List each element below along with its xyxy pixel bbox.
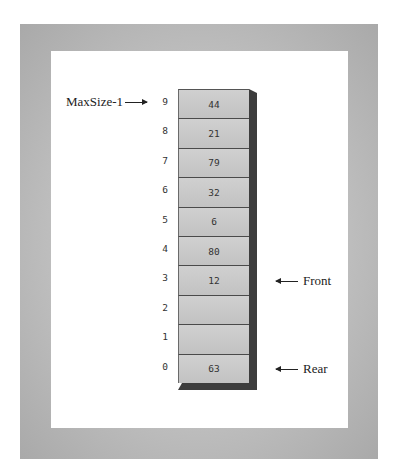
array-cell-6: 32 (178, 177, 249, 206)
front-pointer: Front (276, 273, 331, 289)
array-cell-5: 6 (178, 207, 249, 236)
array-cell-3: 12 (178, 265, 249, 294)
index-label-1: 1 (155, 331, 175, 342)
index-label-4: 4 (155, 243, 175, 254)
arrow-left-icon (276, 369, 298, 370)
index-label-0: 0 (155, 361, 175, 372)
index-label-7: 7 (155, 155, 175, 166)
index-label-5: 5 (155, 214, 175, 225)
array-cell-0: 63 (178, 354, 249, 383)
array-cell-1 (178, 324, 249, 353)
array-cell-7: 79 (178, 148, 249, 177)
array-bottom-tip (178, 383, 182, 390)
array-bottom-face (182, 383, 257, 390)
index-label-3: 3 (155, 272, 175, 283)
index-label-6: 6 (155, 184, 175, 195)
rear-pointer: Rear (276, 361, 328, 377)
index-label-2: 2 (155, 302, 175, 313)
rear-label: Rear (303, 361, 328, 377)
queue-array: 44 21 79 32 6 80 12 63 (178, 89, 249, 383)
index-label-9: 9 (155, 96, 175, 107)
array-cell-2 (178, 295, 249, 324)
array-cell-9: 44 (178, 89, 249, 118)
array-cell-8: 21 (178, 118, 249, 147)
arrow-left-icon (276, 281, 298, 282)
array-cell-4: 80 (178, 236, 249, 265)
maxsize-pointer: MaxSize-1 (66, 94, 147, 110)
index-label-8: 8 (155, 125, 175, 136)
front-label: Front (303, 273, 331, 289)
maxsize-label: MaxSize-1 (66, 94, 123, 110)
arrow-right-icon (125, 102, 147, 103)
array-side-face (249, 93, 257, 390)
